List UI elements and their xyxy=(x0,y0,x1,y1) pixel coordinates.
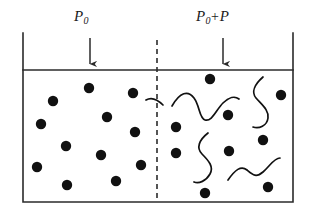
osmotic-pressure-figure: P0 P0+P xyxy=(0,0,311,214)
solvent-particle xyxy=(62,180,72,190)
solvent-particle xyxy=(128,88,138,98)
solvent-particle xyxy=(136,160,146,170)
solvent-particle xyxy=(224,146,234,156)
solvent-particle xyxy=(32,162,42,172)
solvent-particle xyxy=(171,148,181,158)
solvent-particle xyxy=(171,122,181,132)
solvent-particle xyxy=(36,119,46,129)
solvent-particle xyxy=(263,182,273,192)
solvent-particle xyxy=(111,176,121,186)
polymer-chain-2 xyxy=(253,77,268,128)
solvent-particle xyxy=(84,83,94,93)
solvent-particle xyxy=(130,127,140,137)
solvent-particle xyxy=(96,150,106,160)
solvent-particle xyxy=(276,90,286,100)
solvent-particle xyxy=(102,112,112,122)
polymer-chain-4 xyxy=(228,158,280,180)
polymer-chain-5 xyxy=(146,99,163,105)
solvent-particle xyxy=(258,135,268,145)
solvent-particle xyxy=(223,110,233,120)
solvent-particle xyxy=(48,96,58,106)
diagram-canvas xyxy=(0,0,311,214)
solvent-particle xyxy=(200,188,210,198)
polymer-chain-3 xyxy=(194,133,211,183)
container-vessel xyxy=(23,33,293,202)
solvent-compartment-particles xyxy=(32,83,146,190)
solvent-particle xyxy=(205,74,215,84)
vessel-outline xyxy=(23,33,293,202)
solvent-particle xyxy=(61,141,71,151)
polymer-chains xyxy=(146,77,280,183)
